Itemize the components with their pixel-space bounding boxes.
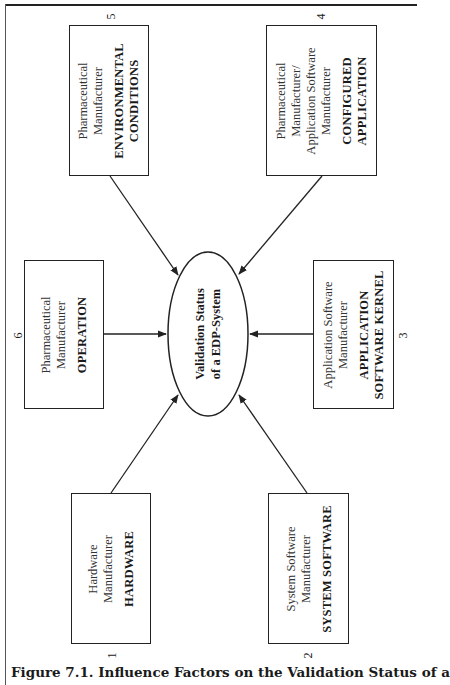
factor-manufacturer: System Software xyxy=(283,505,298,633)
factor-manufacturer: Manufacturer/ xyxy=(289,47,304,154)
factor-manufacturer: Application Software xyxy=(304,47,319,154)
factor-number-6: 6 xyxy=(11,333,26,339)
factor-title: CONDITIONS xyxy=(127,43,142,159)
factor-manufacturer: Application Software xyxy=(321,270,336,399)
factor-box-environmental-conditions: Pharmaceutical Manufacturer ENVIRONMENTA… xyxy=(69,25,149,176)
center-label: Validation Status of a EDP-System xyxy=(192,288,224,380)
factor-title: ENVIRONMENTAL xyxy=(112,43,127,159)
factor-manufacturer: Manufacturer xyxy=(101,531,116,607)
arrow-2 xyxy=(239,395,307,493)
factor-title: OPERATION xyxy=(75,296,90,373)
factor-title: CONFIGURED xyxy=(340,47,355,154)
factor-manufacturer: Manufacturer xyxy=(54,296,69,373)
factor-number-4: 4 xyxy=(314,14,329,20)
factor-manufacturer: Pharmaceutical xyxy=(76,43,91,159)
factor-title: APPLICATION xyxy=(355,47,370,154)
factor-manufacturer: Manufacturer xyxy=(336,270,351,399)
factor-title: HARDWARE xyxy=(122,531,137,607)
factor-box-hardware: Hardware Manufacturer HARDWARE xyxy=(71,493,151,644)
factor-manufacturer: Manufacturer xyxy=(298,505,313,633)
factor-title: SOFTWARE KERNEL xyxy=(372,270,387,399)
factor-manufacturer: Hardware xyxy=(86,531,101,607)
center-label-line1: Validation Status xyxy=(192,288,208,380)
center-label-line2: of a EDP-System xyxy=(208,288,224,380)
factor-manufacturer: Manufacturer xyxy=(91,43,106,159)
factor-box-configured-application: Pharmaceutical Manufacturer/ Application… xyxy=(266,25,377,176)
factor-manufacturer: Pharmaceutical xyxy=(39,296,54,373)
factor-title: SYSTEM SOFTWARE xyxy=(319,505,334,633)
factor-number-2: 2 xyxy=(301,653,316,659)
figure-caption: Figure 7.1. Influence Factors on the Val… xyxy=(11,664,450,680)
factor-box-system-software: System Software Manufacturer SYSTEM SOFT… xyxy=(268,493,349,644)
factor-box-operation: Pharmaceutical Manufacturer OPERATION xyxy=(24,260,104,409)
factor-number-1: 1 xyxy=(105,653,120,659)
arrow-1 xyxy=(111,395,178,493)
factor-title: APPLICATION xyxy=(357,270,372,399)
factor-box-application-software-kernel: Application Software Manufacturer APPLIC… xyxy=(313,260,394,409)
factor-number-5: 5 xyxy=(104,14,119,20)
factor-number-3: 3 xyxy=(396,333,411,339)
arrow-5 xyxy=(110,176,178,275)
arrow-4 xyxy=(239,176,322,274)
factor-manufacturer: Pharmaceutical xyxy=(274,47,289,154)
factor-manufacturer: Manufacturer xyxy=(319,47,334,154)
